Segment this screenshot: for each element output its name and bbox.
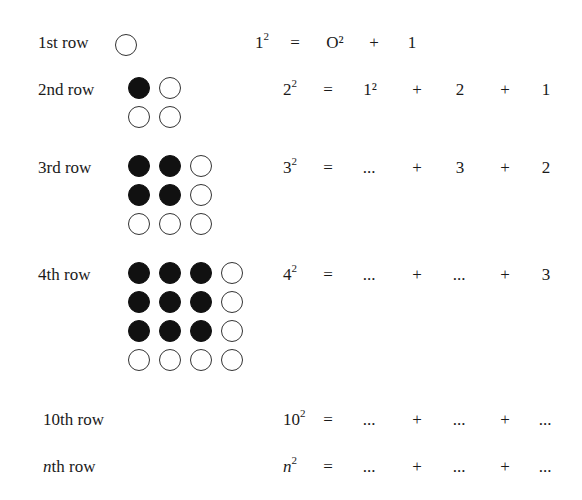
filled-circle-icon [159,262,181,284]
equation-lhs-4: 42 [283,265,297,285]
term: ... [533,457,557,477]
term: ... [533,410,557,430]
plus-sign: + [407,265,427,285]
row-label-n: nth row [43,457,95,477]
term: 3 [536,265,556,285]
equals-sign: = [318,80,338,100]
term: ... [447,457,471,477]
filled-circle-icon [159,320,181,342]
empty-circle-icon [221,291,243,313]
term: ... [447,265,471,285]
row-label-4: 4th row [38,265,90,285]
empty-circle-icon [115,34,137,56]
filled-circle-icon [128,291,150,313]
plus-sign: + [407,158,427,178]
empty-circle-icon [190,184,212,206]
plus-sign: + [407,80,427,100]
equation-lhs-10: 102 [283,410,306,430]
filled-circle-icon [128,184,150,206]
equals-sign: = [318,265,338,285]
plus-sign: + [495,80,515,100]
empty-circle-icon [128,106,150,128]
empty-circle-icon [159,349,181,371]
equals-sign: = [318,410,338,430]
plus-sign: + [364,33,384,53]
empty-circle-icon [159,106,181,128]
plus-sign: + [495,457,515,477]
equation-lhs-2: 22 [283,80,297,100]
term: ... [357,457,381,477]
empty-circle-icon [159,213,181,235]
equation-lhs-n: n2 [283,457,297,477]
filled-circle-icon [190,262,212,284]
equals-sign: = [285,33,305,53]
empty-circle-icon [221,349,243,371]
term: 1 [536,80,556,100]
term: O² [318,33,352,53]
filled-circle-icon [159,155,181,177]
row-label-3: 3rd row [38,158,91,178]
plus-sign: + [495,410,515,430]
equation-lhs-3: 32 [283,158,297,178]
filled-circle-icon [159,291,181,313]
term: ... [357,265,381,285]
row-label-10: 10th row [43,410,104,430]
plus-sign: + [407,457,427,477]
term: 2 [536,158,556,178]
plus-sign: + [495,265,515,285]
term: ... [357,158,381,178]
equals-sign: = [318,457,338,477]
term: 1² [355,80,385,100]
cropped-text-fragment [0,0,582,2]
term: 1 [402,33,422,53]
filled-circle-icon [128,320,150,342]
empty-circle-icon [190,213,212,235]
plus-sign: + [407,410,427,430]
filled-circle-icon [190,291,212,313]
empty-circle-icon [221,320,243,342]
term: ... [357,410,381,430]
filled-circle-icon [128,262,150,284]
filled-circle-icon [128,77,150,99]
equation-lhs-1: 12 [255,33,269,53]
filled-circle-icon [190,320,212,342]
empty-circle-icon [128,213,150,235]
equals-sign: = [318,158,338,178]
plus-sign: + [495,158,515,178]
term: ... [447,410,471,430]
row-label-1: 1st row [38,33,89,53]
empty-circle-icon [221,262,243,284]
empty-circle-icon [190,349,212,371]
row-label-2: 2nd row [38,80,94,100]
empty-circle-icon [159,77,181,99]
empty-circle-icon [128,349,150,371]
term: 3 [450,158,470,178]
filled-circle-icon [159,184,181,206]
term: 2 [450,80,470,100]
empty-circle-icon [190,155,212,177]
filled-circle-icon [128,155,150,177]
